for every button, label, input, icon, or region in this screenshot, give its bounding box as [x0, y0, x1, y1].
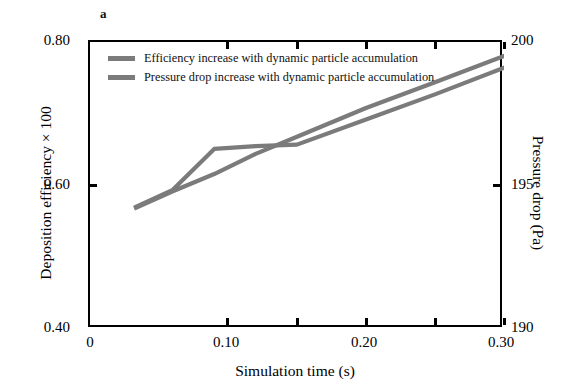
x-axis-tick	[296, 318, 299, 325]
plot-lines	[90, 42, 504, 329]
legend-label-efficiency: Efficiency increase with dynamic particl…	[144, 51, 418, 66]
x-axis-tick	[434, 318, 437, 325]
x-axis-tick-top	[365, 42, 368, 49]
x-tick-label: 0.30	[488, 334, 514, 351]
x-tick-label: 0.20	[351, 334, 377, 351]
x-axis-tick-top	[226, 42, 229, 49]
y-axis-left-title: Deposition efficiency × 100	[37, 43, 55, 343]
panel-label: a	[100, 6, 107, 22]
legend: Efficiency increase with dynamic particl…	[108, 50, 434, 85]
x-axis-title: Simulation time (s)	[88, 362, 502, 380]
chart-figure: a 0.80 0.60 0.40 200 195 190 0 0.10 0.20…	[0, 0, 581, 392]
x-axis-tick	[503, 318, 506, 325]
x-tick-label: 0	[86, 334, 94, 351]
legend-label-pressure-drop: Pressure drop increase with dynamic part…	[144, 70, 434, 85]
x-axis-tick-top	[503, 42, 506, 49]
legend-swatch-pressure-drop	[108, 75, 135, 80]
legend-item-efficiency: Efficiency increase with dynamic particl…	[108, 50, 434, 66]
x-axis-tick-top	[434, 42, 437, 49]
x-axis-tick-top	[296, 42, 299, 49]
x-axis-tick	[226, 318, 229, 325]
y-axis-tick-right	[493, 184, 500, 187]
x-axis-tick	[365, 318, 368, 325]
legend-item-pressure-drop: Pressure drop increase with dynamic part…	[108, 69, 434, 85]
legend-swatch-efficiency	[108, 56, 135, 61]
y-axis-tick-left	[90, 184, 97, 187]
y-axis-right-title: Pressure drop (Pa)	[529, 43, 547, 343]
x-tick-label: 0.10	[213, 334, 239, 351]
